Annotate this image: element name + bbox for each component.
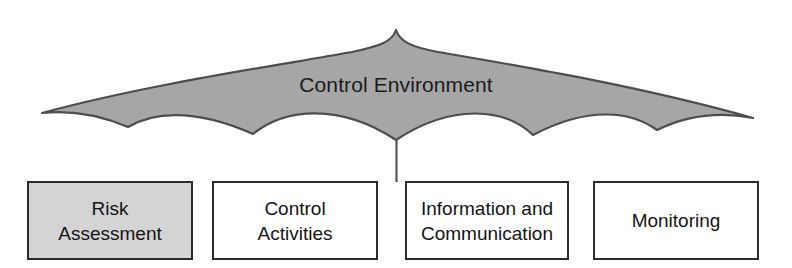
internal-control-umbrella-diagram: Control Environment Risk Assessment Cont…	[0, 0, 792, 268]
component-label-information-and-communication: Information and Communication	[415, 196, 559, 246]
component-box-monitoring[interactable]: Monitoring	[593, 181, 759, 260]
component-label-risk-assessment: Risk Assessment	[52, 196, 167, 246]
component-box-risk-assessment[interactable]: Risk Assessment	[27, 181, 193, 260]
component-label-monitoring: Monitoring	[626, 208, 727, 233]
component-box-control-activities[interactable]: Control Activities	[212, 181, 378, 260]
component-label-control-activities: Control Activities	[252, 196, 339, 246]
umbrella-canopy-shape	[42, 30, 753, 140]
component-box-information-and-communication[interactable]: Information and Communication	[405, 181, 569, 260]
